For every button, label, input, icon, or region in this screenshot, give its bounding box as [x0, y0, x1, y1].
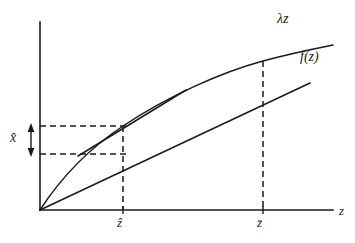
x-hat-label: x̂	[10, 131, 16, 145]
lambda-z-label: λz	[277, 12, 289, 26]
x-axis-label: z	[339, 204, 344, 217]
lambda-z-line	[40, 83, 310, 210]
axes-group	[40, 22, 333, 210]
x-hat-arrow-head-down	[28, 148, 35, 157]
z-hat-label: ẑ	[117, 216, 122, 229]
f-of-z-label: f(z)	[300, 50, 319, 64]
tangent-segment-at-z-hat	[78, 90, 186, 156]
figure-container: λz f(z) x̂ ẑ z̄ z	[0, 0, 355, 243]
x-hat-arrow-head-up	[28, 123, 35, 132]
x-hat-measure-arrow	[28, 123, 35, 157]
guide-lines-group	[40, 61, 263, 209]
figure-canvas	[0, 0, 355, 243]
f-of-z-curve	[40, 45, 333, 210]
z-bar-label: z̄	[257, 216, 262, 229]
